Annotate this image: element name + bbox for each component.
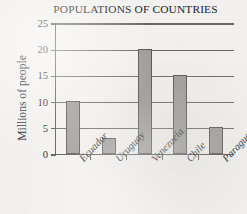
y-axis-tick-label: 20 bbox=[37, 45, 48, 56]
y-axis-tick bbox=[51, 154, 56, 155]
y-axis-tick bbox=[51, 102, 56, 103]
y-axis-tick bbox=[51, 76, 56, 77]
y-axis-tick-label: 5 bbox=[43, 124, 48, 135]
x-axis-label-text: Ecuador bbox=[78, 157, 86, 164]
x-axis-label-text: Chile bbox=[185, 157, 193, 164]
x-axis-label-text: Venezuela bbox=[150, 157, 158, 164]
y-axis-label: Millions of people bbox=[12, 34, 28, 162]
y-axis-tick bbox=[51, 50, 56, 51]
y-axis-tick-label: 15 bbox=[37, 71, 48, 82]
gridline bbox=[55, 23, 234, 24]
y-axis-line bbox=[55, 24, 56, 155]
y-axis-tick bbox=[51, 128, 56, 129]
chart-title: POPULATIONS OF COUNTRIES bbox=[0, 3, 247, 15]
chart-figure: POPULATIONS OF COUNTRIES Millions of peo… bbox=[0, 0, 247, 214]
x-axis-labels: EcuadorUruguayVenezuelaChileParaguay bbox=[55, 157, 234, 213]
x-axis-label-text: Uruguay bbox=[114, 157, 122, 164]
y-axis-tick-label: 25 bbox=[37, 19, 48, 30]
y-axis-tick bbox=[51, 23, 56, 24]
y-axis-label-text: Millions of people bbox=[16, 55, 29, 141]
y-axis-tick-label: 10 bbox=[37, 97, 48, 108]
bar bbox=[66, 101, 80, 153]
y-axis-tick-label: 0 bbox=[43, 150, 48, 161]
bar bbox=[209, 127, 223, 153]
x-axis-label-text: Paraguay bbox=[221, 157, 229, 164]
